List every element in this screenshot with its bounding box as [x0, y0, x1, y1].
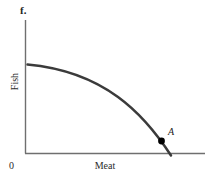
ppf-figure: f. Fish Meat 0 A: [0, 0, 208, 176]
point-a-label: A: [168, 126, 174, 137]
x-axis-label: Meat: [25, 160, 185, 171]
y-axis-label: Fish: [9, 60, 20, 104]
point-a-marker: [158, 138, 165, 145]
plot-canvas: [0, 0, 208, 176]
ppf-curve: [28, 65, 172, 156]
origin-label: 0: [9, 160, 14, 171]
